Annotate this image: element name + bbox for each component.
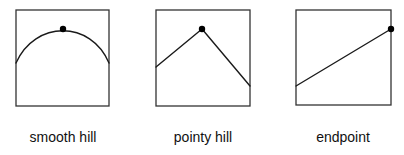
label-pointy-hill: pointy hill — [174, 129, 232, 145]
panel-smooth-hill — [16, 10, 109, 106]
pointy-hill-curve — [156, 29, 250, 86]
label-endpoint: endpoint — [316, 129, 370, 145]
panel-frame — [16, 10, 109, 106]
maximum-marker — [199, 26, 205, 32]
panel-pointy-hill — [156, 10, 250, 106]
panel-endpoint — [296, 10, 394, 105]
label-smooth-hill: smooth hill — [30, 129, 97, 145]
maximum-marker — [60, 26, 66, 32]
maximum-marker — [388, 26, 394, 32]
panel-frame — [156, 10, 250, 106]
smooth-hill-curve — [16, 31, 109, 63]
endpoint-line — [296, 29, 391, 86]
